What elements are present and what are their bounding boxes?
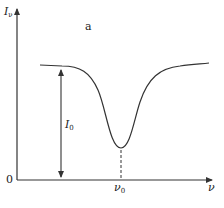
x-axis-label: ν <box>208 182 215 193</box>
baseline-intensity-label: I0 <box>65 119 74 132</box>
origin-label: 0 <box>6 174 13 185</box>
y-axis-label: Iν <box>4 6 13 19</box>
panel-label: a <box>85 21 92 32</box>
absorption-profile-curve <box>40 63 209 148</box>
center-frequency-label: ν0 <box>114 182 125 195</box>
absorption-line-diagram <box>0 0 224 208</box>
